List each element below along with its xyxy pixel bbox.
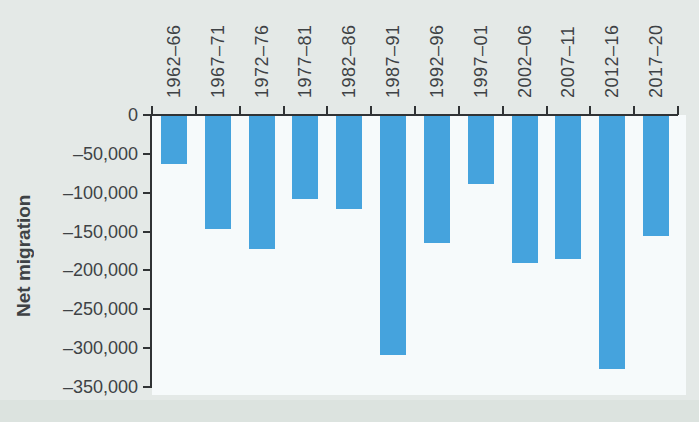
x-axis-tick bbox=[195, 106, 197, 115]
x-axis-tick bbox=[414, 106, 416, 115]
x-axis-tick bbox=[502, 106, 504, 115]
page-bottom-band bbox=[0, 400, 699, 422]
y-tick-label: –100,000 bbox=[20, 182, 138, 204]
bar bbox=[336, 116, 362, 209]
bar bbox=[249, 116, 275, 249]
y-tick-label: –250,000 bbox=[20, 298, 138, 320]
y-axis-tick bbox=[143, 347, 152, 349]
x-category-label: 2012–16 bbox=[601, 13, 623, 98]
x-category-label: 1967–71 bbox=[207, 13, 229, 98]
bar bbox=[555, 116, 581, 259]
y-axis-tick bbox=[143, 386, 152, 388]
bar bbox=[205, 116, 231, 229]
bar bbox=[599, 116, 625, 369]
x-axis-tick bbox=[633, 106, 635, 115]
x-category-label: 2002–06 bbox=[514, 13, 536, 98]
x-category-label: 2017–20 bbox=[645, 13, 667, 98]
x-axis-tick bbox=[546, 106, 548, 115]
y-axis-tick bbox=[143, 192, 152, 194]
y-axis-tick bbox=[143, 269, 152, 271]
x-category-label: 1977–81 bbox=[294, 13, 316, 98]
bar bbox=[161, 116, 187, 164]
chart-figure: Net migration 0–50,000–100,000–150,000–2… bbox=[0, 0, 699, 422]
bar bbox=[380, 116, 406, 355]
x-axis-tick bbox=[677, 106, 679, 115]
x-axis-tick bbox=[151, 106, 153, 115]
bar bbox=[512, 116, 538, 263]
x-category-label: 1992–96 bbox=[426, 13, 448, 98]
x-category-label: 2007–11 bbox=[557, 13, 579, 98]
x-category-label: 1962–66 bbox=[163, 13, 185, 98]
y-tick-label: –150,000 bbox=[20, 221, 138, 243]
y-tick-label: –50,000 bbox=[20, 143, 138, 165]
x-category-label: 1982–86 bbox=[338, 13, 360, 98]
x-category-label: 1987–91 bbox=[382, 13, 404, 98]
bar bbox=[468, 116, 494, 184]
bar bbox=[643, 116, 669, 236]
x-axis-tick bbox=[326, 106, 328, 115]
bar bbox=[424, 116, 450, 243]
x-axis-tick bbox=[239, 106, 241, 115]
x-category-label: 1997–01 bbox=[470, 13, 492, 98]
y-tick-label: –200,000 bbox=[20, 259, 138, 281]
y-tick-label: 0 bbox=[20, 104, 138, 126]
y-axis-tick bbox=[143, 153, 152, 155]
bar bbox=[292, 116, 318, 199]
y-axis-tick bbox=[143, 308, 152, 310]
x-category-label: 1972–76 bbox=[251, 13, 273, 98]
y-tick-label: –300,000 bbox=[20, 337, 138, 359]
x-axis-tick bbox=[458, 106, 460, 115]
x-axis-tick bbox=[589, 106, 591, 115]
y-tick-label: –350,000 bbox=[20, 376, 138, 398]
x-axis-tick bbox=[283, 106, 285, 115]
x-axis-tick bbox=[370, 106, 372, 115]
y-axis-tick bbox=[143, 231, 152, 233]
